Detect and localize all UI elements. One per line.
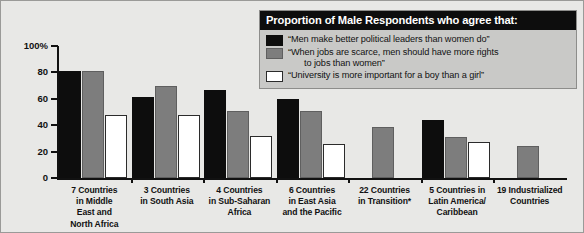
legend-item-label: “Men make better political leaders than … [288, 34, 489, 45]
bar [517, 146, 539, 178]
bar [300, 111, 322, 178]
legend-swatch-icon [266, 71, 283, 82]
x-axis-tick-mark [131, 178, 133, 183]
legend-item: “University is more important for a boy … [266, 70, 570, 82]
x-axis-category-label-line: Latin America/ [421, 196, 494, 207]
bar [277, 99, 299, 178]
y-axis-tick-mark [51, 177, 58, 179]
legend-item-line1: “Men make better political leaders than … [288, 34, 489, 44]
x-axis-category-label-line: in South Asia [131, 196, 204, 207]
bar-group [58, 46, 131, 178]
bar [82, 71, 104, 178]
y-axis-tick-label: 60 [37, 94, 48, 104]
y-axis-tick-mark [51, 124, 58, 126]
x-axis-category-label-line: East and [58, 207, 131, 218]
x-axis-tick-mark [493, 178, 495, 183]
x-axis-category-label: 7 Countriesin MiddleEast andNorth Africa [58, 185, 131, 230]
y-axis-tick: 20 [1, 147, 48, 157]
legend-item-line2: to jobs than women” [288, 58, 499, 69]
x-axis-category-label: 4 Countriesin Sub-SaharanAfrica [203, 185, 276, 219]
y-axis-tick-mark [51, 71, 58, 73]
x-axis-category-label: 6 Countriesin East Asiaand the Pacific [276, 185, 349, 219]
bar [105, 115, 127, 178]
legend-item: “When jobs are scarce, men should have m… [266, 47, 570, 69]
bar [468, 142, 490, 178]
legend-swatch-icon [266, 35, 283, 46]
bar-chart-figure: 100%806040200 7 Countriesin MiddleEast a… [0, 0, 584, 233]
y-axis-tick-label: 100% [24, 41, 48, 51]
y-axis-tick-label: 0 [43, 173, 48, 183]
y-axis-tick: 40 [1, 120, 48, 130]
x-axis-category-label-line: in Sub-Saharan [203, 196, 276, 207]
x-axis-category-label-line: in Middle [58, 196, 131, 207]
bar [445, 137, 467, 178]
bar [227, 111, 249, 178]
legend-items: “Men make better political leaders than … [260, 30, 576, 88]
bar [59, 71, 81, 178]
x-axis-category-label-line: North Africa [58, 219, 131, 230]
legend-item-line1: “When jobs are scarce, men should have m… [288, 47, 499, 57]
y-axis-tick: 60 [1, 94, 48, 104]
legend-swatch-icon [266, 48, 283, 59]
legend-item-line1: “University is more important for a boy … [288, 70, 484, 80]
bar [155, 86, 177, 178]
x-axis-category-label: 19 IndustrializedCountries [493, 185, 566, 207]
x-axis-category-label-line: and the Pacific [276, 207, 349, 218]
y-axis-tick: 80 [1, 67, 48, 77]
bar [323, 144, 345, 178]
x-axis-category-label-line: 22 Countries [348, 185, 421, 196]
y-axis-tick-mark [51, 45, 58, 47]
x-axis-category-label-line: in Transition* [348, 196, 421, 207]
bar [250, 136, 272, 178]
legend-item-label: “University is more important for a boy … [288, 70, 484, 81]
legend-item-label: “When jobs are scarce, men should have m… [288, 47, 499, 69]
x-axis-category-label-line: 3 Countries [131, 185, 204, 196]
legend: Proportion of Male Respondents who agree… [259, 10, 577, 89]
x-axis-category-label-line: Africa [203, 207, 276, 218]
x-axis-category-label-line: 5 Countries in [421, 185, 494, 196]
y-axis-tick-label: 80 [37, 67, 48, 77]
legend-title: Proportion of Male Respondents who agree… [260, 11, 576, 30]
y-axis-tick-mark [51, 151, 58, 153]
y-axis-tick-label: 20 [37, 147, 48, 157]
y-axis-tick-mark [51, 98, 58, 100]
x-axis-tick-mark [421, 178, 423, 183]
x-axis-category-label-line: 19 Industrialized [493, 185, 566, 196]
x-axis-category-label-line: 6 Countries [276, 185, 349, 196]
y-axis-tick-label: 40 [37, 120, 48, 130]
x-axis-tick-mark [276, 178, 278, 183]
x-axis-category-label-line: 7 Countries [58, 185, 131, 196]
bar [178, 115, 200, 178]
bar [372, 127, 394, 178]
legend-item: “Men make better political leaders than … [266, 34, 570, 46]
x-axis-category-label-line: in East Asia [276, 196, 349, 207]
y-axis-tick: 0 [1, 173, 48, 183]
x-axis-line [57, 178, 567, 180]
x-axis-category-label: 3 Countriesin South Asia [131, 185, 204, 207]
bar [422, 120, 444, 178]
bar-group [131, 46, 204, 178]
bar [132, 97, 154, 178]
x-axis-category-label-line: 4 Countries [203, 185, 276, 196]
x-axis-category-label: 5 Countries inLatin America/Caribbean [421, 185, 494, 219]
x-axis-category-label: 22 Countriesin Transition* [348, 185, 421, 207]
x-axis-tick-mark [348, 178, 350, 183]
x-axis-category-label-line: Caribbean [421, 207, 494, 218]
x-axis-category-label-line: Countries [493, 196, 566, 207]
y-axis-tick: 100% [1, 41, 48, 51]
x-axis-tick-mark [203, 178, 205, 183]
bar [204, 90, 226, 178]
